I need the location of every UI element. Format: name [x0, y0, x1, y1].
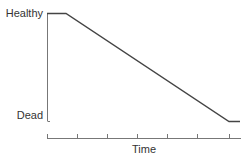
health-over-time-chart: Healthy Dead Time [0, 0, 251, 163]
health-curve [47, 14, 240, 122]
y-label-dead: Dead [17, 109, 43, 121]
y-label-healthy: Healthy [6, 7, 44, 19]
x-axis-label: Time [132, 143, 156, 155]
x-axis [47, 134, 241, 139]
